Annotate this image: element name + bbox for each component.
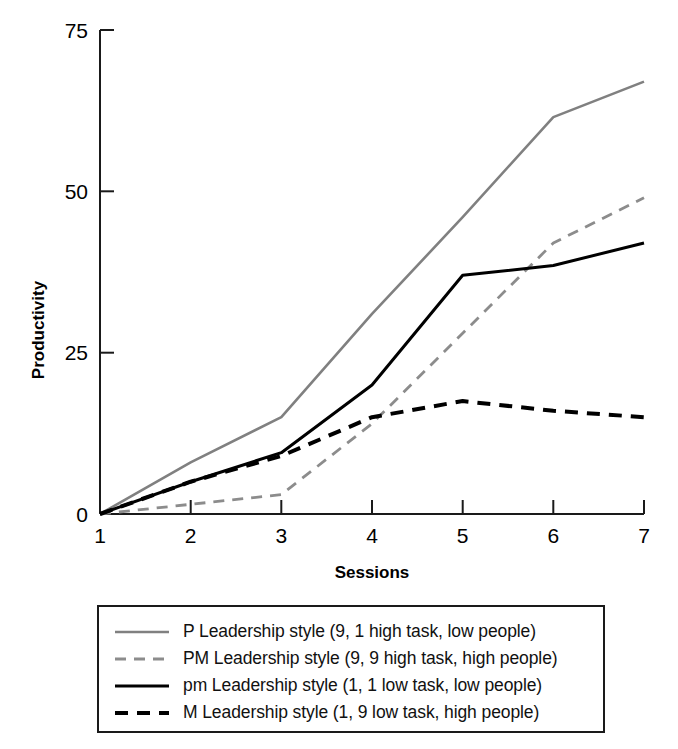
x-tick-label-1: 1	[94, 524, 106, 547]
x-axis-title: Sessions	[335, 563, 410, 582]
x-tick-label-2: 2	[185, 524, 197, 547]
legend-item: PM Leadership style (9, 9 high task, hig…	[115, 645, 603, 672]
legend-item-label: pm Leadership style (1, 1 low task, low …	[183, 675, 542, 696]
x-tick-label-7: 7	[638, 524, 650, 547]
legend-item-label: PM Leadership style (9, 9 high task, hig…	[183, 648, 558, 669]
x-tick-label-4: 4	[366, 524, 378, 547]
dashed-gray-line-icon	[115, 652, 169, 666]
series-line-M	[100, 401, 644, 514]
chart-legend: P Leadership style (9, 1 high task, low …	[97, 605, 605, 733]
y-tick-label-0: 0	[76, 503, 88, 526]
y-axis-title: Productivity	[29, 280, 48, 379]
dashed-black-line-icon	[115, 706, 169, 720]
legend-item-label: M Leadership style (1, 9 low task, high …	[183, 702, 539, 723]
solid-gray-line-icon	[115, 625, 169, 639]
legend-item: pm Leadership style (1, 1 low task, low …	[115, 672, 603, 699]
productivity-sessions-line-chart: 75 50 25 0 Productivity 1 2 3 4 5 6 7 Se…	[0, 0, 678, 749]
chart-series-group	[100, 82, 644, 514]
x-tick-label-3: 3	[275, 524, 287, 547]
series-line-pm	[100, 243, 644, 514]
y-tick-label-75: 75	[65, 19, 88, 42]
x-tick-label-6: 6	[547, 524, 559, 547]
x-axis-ticks	[100, 500, 644, 514]
y-axis-ticks	[100, 30, 114, 514]
series-line-P	[100, 82, 644, 514]
y-tick-label-25: 25	[65, 341, 88, 364]
legend-item: P Leadership style (9, 1 high task, low …	[115, 618, 603, 645]
y-tick-label-50: 50	[65, 180, 88, 203]
legend-item-label: P Leadership style (9, 1 high task, low …	[183, 621, 536, 642]
x-tick-label-5: 5	[457, 524, 469, 547]
solid-black-line-icon	[115, 679, 169, 693]
legend-item: M Leadership style (1, 9 low task, high …	[115, 699, 603, 726]
legend-item-list: P Leadership style (9, 1 high task, low …	[99, 607, 603, 731]
